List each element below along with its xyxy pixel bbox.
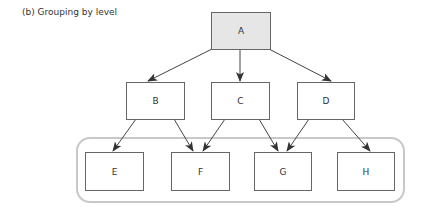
node-label: G	[280, 167, 287, 177]
node-label: H	[363, 167, 370, 177]
node-f: F	[172, 153, 230, 191]
node-h: H	[338, 153, 395, 191]
edge-c-to-f	[203, 119, 225, 151]
edge-c-to-g	[259, 119, 278, 151]
node-b: B	[127, 83, 185, 120]
node-label: A	[238, 26, 245, 36]
node-d: D	[298, 83, 355, 120]
node-label: C	[237, 96, 243, 106]
edge-d-to-g	[287, 119, 309, 151]
node-g: G	[255, 153, 312, 191]
edge-b-to-f	[174, 119, 193, 151]
node-label: B	[152, 96, 158, 106]
node-e: E	[86, 153, 144, 191]
node-a: A	[212, 13, 271, 50]
edge-b-to-e	[113, 119, 136, 151]
edge-a-to-d	[269, 49, 331, 81]
node-label: D	[323, 96, 330, 106]
node-c: C	[212, 83, 270, 120]
edge-d-to-h	[342, 119, 370, 151]
nodes: ABCDEFGH	[86, 13, 395, 191]
tree-diagram: ABCDEFGH	[0, 0, 422, 212]
node-label: E	[112, 167, 118, 177]
node-label: F	[198, 167, 203, 177]
edge-a-to-b	[148, 49, 212, 81]
